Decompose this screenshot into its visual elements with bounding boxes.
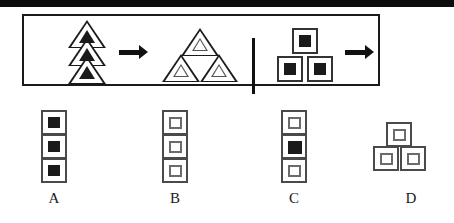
square-hollow [162,110,188,135]
option-label-c: C [279,190,309,207]
square-inner-hollow-icon [380,153,393,165]
square-inner-hollow-icon [288,117,301,129]
square-filled [307,56,333,82]
square-inner-hollow-icon [169,117,182,129]
arrow-head [139,45,148,59]
arrow-head [365,45,374,59]
stem-problem-box [22,14,380,86]
square-filled [281,134,307,159]
square-inner-hollow-icon [169,141,182,153]
arrow-right-icon [119,45,149,59]
square-inner-filled-icon [314,63,326,75]
square-inner-filled-icon [48,165,60,176]
square-filled [41,110,67,135]
arrow-right-icon [345,45,375,59]
square-inner-hollow-icon [407,153,420,165]
triangle-hollow [200,54,238,82]
square-inner-filled-icon [48,117,60,128]
square-filled [41,158,67,183]
square-hollow [162,134,188,159]
option-label-a: A [39,190,69,207]
square-filled [41,134,67,159]
square-hollow [373,146,399,171]
square-hollow [281,158,307,183]
triangle-inner-filled-icon [79,30,95,43]
square-inner-hollow-icon [169,165,182,177]
arrow-shaft [345,50,366,55]
square-hollow [162,158,188,183]
square-inner-filled-icon [48,141,60,152]
triangle-hollow [162,54,200,82]
square-inner-filled-icon [284,63,296,75]
arrow-shaft [119,50,140,55]
square-filled [292,28,318,54]
option-label-b: B [160,190,190,207]
square-filled [277,56,303,82]
square-inner-filled-icon [288,141,302,154]
triangle-inner-hollow-icon [192,38,208,51]
square-inner-hollow-icon [393,129,406,141]
square-inner-filled-icon [299,35,311,47]
square-hollow [281,110,307,135]
triangle-inner-hollow-icon [211,64,227,77]
top-black-bar [0,0,454,7]
panel-divider [252,38,255,94]
triangle-inner-hollow-icon [173,64,189,77]
square-inner-hollow-icon [288,165,301,177]
triangle-inner-filled-icon [79,66,95,79]
square-hollow [386,122,412,147]
triangle-inner-filled-icon [79,48,95,61]
triangle-hollow [181,28,219,56]
square-hollow [400,146,426,171]
option-label-d: D [396,190,426,207]
